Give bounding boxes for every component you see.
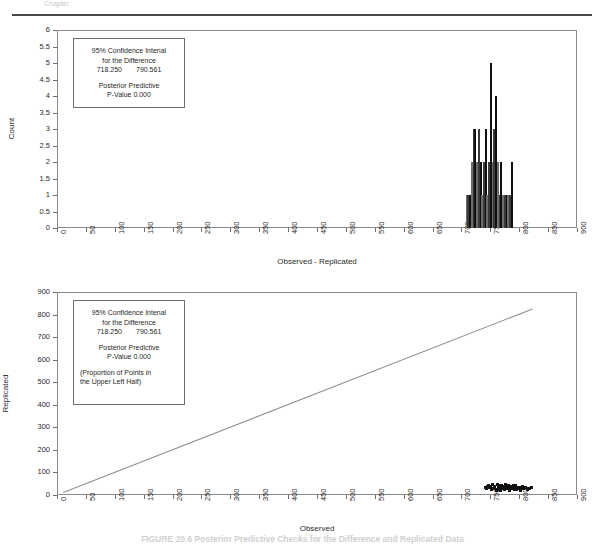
x-tick-label: 600 <box>407 221 415 234</box>
p-value-text: P-Value 0.000 <box>80 90 178 100</box>
x-tick-mark <box>115 495 116 499</box>
ci-upper-value: 790.561 <box>136 327 161 337</box>
scatter-y-axis-title: Replicated <box>1 292 10 495</box>
x-tick-label: 650 <box>436 488 444 501</box>
x-tick-label: 0 <box>60 230 68 234</box>
histogram-annotation-box: 95% Confidence Intenal for the Differenc… <box>73 38 185 108</box>
x-tick-mark <box>433 228 434 232</box>
y-tick-label: 700 <box>17 333 50 341</box>
scatter-point <box>519 486 522 489</box>
x-tick-label: 400 <box>291 221 299 234</box>
y-tick-mark <box>53 382 57 383</box>
y-tick-mark <box>53 360 57 361</box>
x-tick-label: 250 <box>204 488 212 501</box>
y-tick-label: 6 <box>17 26 50 34</box>
y-tick-label: 900 <box>17 288 50 296</box>
scatter-point <box>500 484 503 487</box>
histogram-x-axis-title: Observed - Replicated <box>57 257 577 266</box>
y-tick-label: 1.5 <box>17 175 50 183</box>
y-tick-mark <box>53 113 57 114</box>
x-tick-label: 100 <box>118 221 126 234</box>
x-tick-label: 150 <box>147 221 155 234</box>
scatter-annotation-box: 95% Confidence Intenal for the Differenc… <box>73 300 185 405</box>
x-tick-mark <box>288 495 289 499</box>
x-tick-label: 450 <box>320 488 328 501</box>
scatter-point <box>526 487 529 490</box>
y-tick-mark <box>53 129 57 130</box>
y-tick-mark <box>53 405 57 406</box>
y-tick-mark <box>53 80 57 81</box>
y-tick-label: 0 <box>17 491 50 499</box>
x-tick-label: 450 <box>320 221 328 234</box>
x-tick-label: 600 <box>407 488 415 501</box>
y-tick-mark <box>53 47 57 48</box>
x-tick-label: 550 <box>378 488 386 501</box>
y-tick-label: 200 <box>17 446 50 454</box>
y-tick-label: 100 <box>17 468 50 476</box>
scatter-point <box>506 484 509 487</box>
ci-upper-value: 790.561 <box>136 65 161 75</box>
x-tick-label: 400 <box>291 488 299 501</box>
x-tick-label: 300 <box>233 488 241 501</box>
histogram-bar <box>511 162 513 228</box>
x-tick-label: 0 <box>60 497 68 501</box>
ci-lower-value: 718.250 <box>97 327 122 337</box>
histogram-y-axis-title: Count <box>7 30 16 228</box>
x-tick-mark <box>346 495 347 499</box>
x-tick-label: 350 <box>262 488 270 501</box>
scatter-point <box>513 488 516 491</box>
x-tick-label: 850 <box>551 221 559 234</box>
y-tick-mark <box>53 315 57 316</box>
y-tick-label: 3 <box>17 125 50 133</box>
y-tick-label: 600 <box>17 356 50 364</box>
y-tick-label: 500 <box>17 378 50 386</box>
x-tick-label: 200 <box>176 221 184 234</box>
y-tick-label: 2.5 <box>17 142 50 150</box>
y-tick-label: 400 <box>17 401 50 409</box>
y-tick-mark <box>53 427 57 428</box>
scatter-x-axis-title: Observed <box>57 524 577 533</box>
x-tick-label: 850 <box>551 488 559 501</box>
y-tick-label: 0 <box>17 224 50 232</box>
ci-title-line1: 95% Confidence Intenal <box>80 46 178 56</box>
x-tick-mark <box>548 495 549 499</box>
y-tick-label: 1 <box>17 191 50 199</box>
x-tick-mark <box>375 228 376 232</box>
posterior-predictive-label: Posterior Predictive <box>80 343 178 353</box>
y-tick-label: 4 <box>17 92 50 100</box>
scatter-point <box>486 485 489 488</box>
figure-page: Chapter Count Observed - Replicated 00.5… <box>0 0 605 550</box>
x-tick-mark <box>144 495 145 499</box>
y-tick-mark <box>53 292 57 293</box>
x-tick-mark <box>57 228 58 232</box>
ci-title-line2: for the Difference <box>80 318 178 328</box>
x-tick-mark <box>115 228 116 232</box>
y-tick-label: 800 <box>17 311 50 319</box>
x-tick-mark <box>173 228 174 232</box>
x-tick-mark <box>375 495 376 499</box>
y-tick-mark <box>53 30 57 31</box>
y-tick-mark <box>53 472 57 473</box>
x-tick-label: 500 <box>349 221 357 234</box>
ci-title-line2: for the Difference <box>80 56 178 66</box>
x-tick-label: 500 <box>349 488 357 501</box>
y-tick-mark <box>53 96 57 97</box>
x-tick-label: 900 <box>580 488 588 501</box>
y-tick-mark <box>53 179 57 180</box>
x-tick-mark <box>577 228 578 232</box>
y-tick-label: 3.5 <box>17 109 50 117</box>
x-tick-label: 50 <box>89 226 97 234</box>
x-tick-label: 200 <box>176 488 184 501</box>
x-tick-mark <box>317 495 318 499</box>
posterior-predictive-label: Posterior Predictive <box>80 81 178 91</box>
figure-caption: FIGURE 20.6 Posterior Predictive Checks … <box>0 534 605 550</box>
scatter-point <box>499 489 502 492</box>
x-tick-mark <box>548 228 549 232</box>
proportion-note-line2: the Upper Left Half) <box>80 377 178 387</box>
x-tick-mark <box>57 495 58 499</box>
x-tick-label: 50 <box>89 493 97 501</box>
y-tick-label: 5.5 <box>17 43 50 51</box>
x-tick-label: 250 <box>204 221 212 234</box>
x-tick-mark <box>404 495 405 499</box>
scatter-point <box>493 487 496 490</box>
